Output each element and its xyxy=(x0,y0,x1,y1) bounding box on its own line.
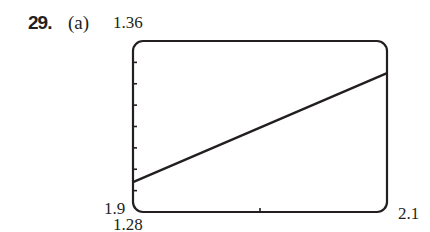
graph-viewing-window xyxy=(0,0,430,232)
axis-ticks xyxy=(133,62,260,212)
function-graph-line xyxy=(133,73,387,182)
